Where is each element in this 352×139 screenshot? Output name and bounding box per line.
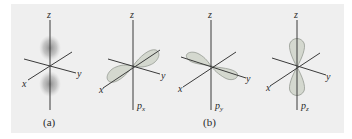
y-axis-label: y <box>325 71 331 82</box>
x-axis-label: x <box>265 82 271 93</box>
z-axis-label: z <box>46 9 51 20</box>
x-axis-label: x <box>177 83 183 94</box>
z-axis-label: z <box>293 9 298 20</box>
x-axis-label: x <box>98 84 104 95</box>
caption-a: (a) <box>43 116 56 129</box>
orbital-figure: z x y z x y px z x y py z <box>0 0 352 139</box>
z-axis-label: z <box>129 9 134 20</box>
caption-b: (b) <box>203 116 216 129</box>
z-axis-label: z <box>207 9 212 20</box>
x-axis-label: x <box>21 78 27 89</box>
y-axis-label: y <box>245 73 251 84</box>
y-axis-label: y <box>160 70 166 81</box>
y-axis-label: y <box>76 68 82 79</box>
